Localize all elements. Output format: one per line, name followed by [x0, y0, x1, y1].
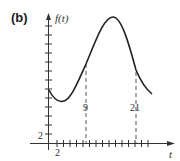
function-curve	[49, 17, 152, 101]
annotation-21: 21	[130, 102, 140, 113]
y-axis-arrow-icon	[46, 13, 51, 20]
y-axis-label: f(t)	[55, 12, 69, 25]
x-axis-arrow-icon	[167, 141, 175, 146]
y-tick-label: 2	[38, 130, 43, 141]
x-axis	[30, 140, 168, 147]
x-axis-label: t	[169, 148, 173, 160]
reference-lines	[86, 64, 136, 143]
chart-area: f(t) t 2 2 9 21	[0, 0, 180, 161]
x-tick-label: 2	[55, 147, 60, 158]
y-axis	[45, 20, 52, 150]
annotation-9: 9	[83, 102, 88, 113]
